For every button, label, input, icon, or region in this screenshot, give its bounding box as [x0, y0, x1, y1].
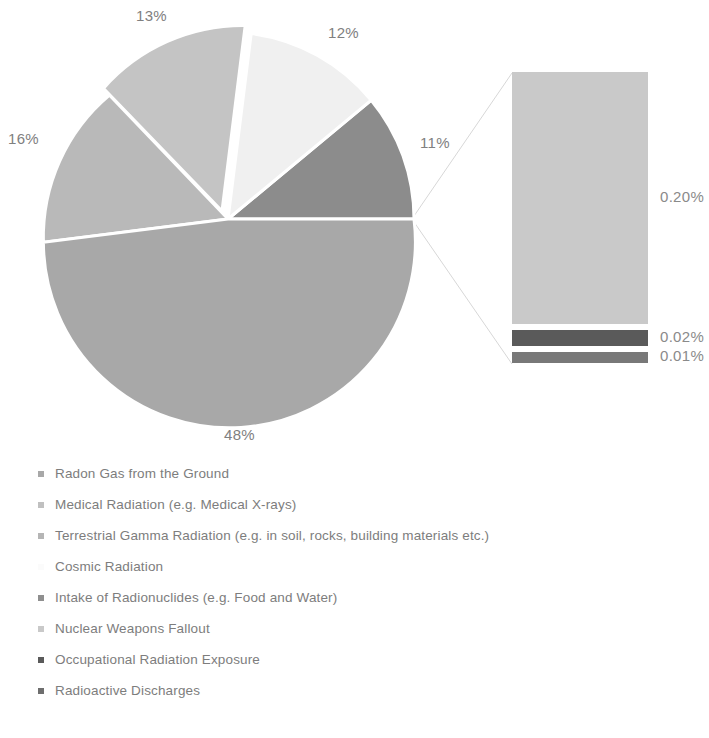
legend-item-label: Nuclear Weapons Fallout [55, 621, 210, 636]
legend-item-cosmic-radiation[interactable]: Cosmic Radiation [38, 551, 698, 582]
chart-graphic [0, 0, 709, 455]
bar-label-001-percent: 0.01% [660, 347, 704, 364]
legend-swatch-icon [38, 471, 44, 477]
legend-item-terrestrial-gamma-radiation[interactable]: Terrestrial Gamma Radiation (e.g. in soi… [38, 520, 698, 551]
legend-swatch-icon [38, 688, 44, 694]
bar-segment-radioactive-discharges[interactable] [512, 352, 648, 363]
bar-segment-nuclear-weapons-fallout[interactable] [512, 72, 648, 324]
legend-swatch-icon [38, 502, 44, 508]
legend-item-label: Terrestrial Gamma Radiation (e.g. in soi… [55, 528, 489, 543]
pie-label-12-percent: 12% [328, 24, 359, 41]
legend-item-nuclear-weapons-fallout[interactable]: Nuclear Weapons Fallout [38, 613, 698, 644]
chart-legend: Radon Gas from the Ground Medical Radiat… [38, 458, 698, 706]
pie-label-13-percent: 13% [136, 7, 167, 24]
bar-label-020-percent: 0.20% [660, 188, 704, 205]
pie-label-11-percent: 11% [420, 134, 450, 151]
legend-item-occupational-radiation-exposure[interactable]: Occupational Radiation Exposure [38, 644, 698, 675]
pie [43, 25, 415, 427]
legend-swatch-icon [38, 595, 44, 601]
legend-item-intake-of-radionuclides[interactable]: Intake of Radionuclides (e.g. Food and W… [38, 582, 698, 613]
legend-swatch-icon [38, 533, 44, 539]
legend-swatch-icon [38, 564, 44, 570]
legend-item-label: Radon Gas from the Ground [55, 466, 229, 481]
connector-lines [414, 73, 512, 364]
bar-of-pie-chart: 13% 12% 16% 11% 48% 0.20% 0.02% 0.01% Ra… [0, 0, 709, 738]
legend-item-label: Radioactive Discharges [55, 683, 200, 698]
legend-item-label: Intake of Radionuclides (e.g. Food and W… [55, 590, 337, 605]
pie-slice-radon-gas[interactable] [43, 219, 415, 428]
legend-item-label: Occupational Radiation Exposure [55, 652, 260, 667]
pie-label-16-percent: 16% [8, 130, 39, 147]
legend-item-radioactive-discharges[interactable]: Radioactive Discharges [38, 675, 698, 706]
connector-line-bottom [414, 222, 512, 364]
bar-segment-occupational-radiation-exposure[interactable] [512, 330, 648, 346]
legend-item-radon-gas[interactable]: Radon Gas from the Ground [38, 458, 698, 489]
legend-swatch-icon [38, 626, 44, 632]
plot-area: 13% 12% 16% 11% 48% 0.20% 0.02% 0.01% [0, 0, 709, 455]
legend-item-label: Medical Radiation (e.g. Medical X-rays) [55, 497, 296, 512]
pie-label-48-percent: 48% [224, 426, 255, 443]
secondary-bar [512, 72, 648, 363]
bar-label-002-percent: 0.02% [660, 328, 704, 345]
legend-item-medical-radiation[interactable]: Medical Radiation (e.g. Medical X-rays) [38, 489, 698, 520]
legend-item-label: Cosmic Radiation [55, 559, 163, 574]
legend-swatch-icon [38, 657, 44, 663]
